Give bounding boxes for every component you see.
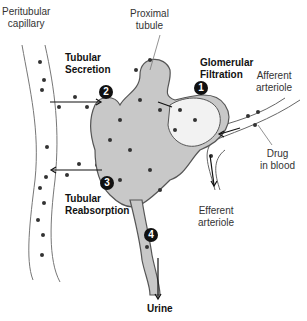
tubular-secretion-label: Tubular Secretion [65,52,111,76]
label-line: Tubular [65,52,111,64]
label-line: Filtration [200,69,253,81]
label-line: tubule [130,20,169,32]
label-line: Glomerular [200,57,253,69]
label-line: arteriole [256,82,292,94]
capillary-dots [36,60,99,257]
label-line: arteriole [198,217,234,229]
step-2-badge: 2 [99,85,113,99]
label-line: Peritubular [2,6,50,18]
label-line: Afferent [256,70,292,82]
afferent-arteriole-label: Afferent arteriole [256,70,292,94]
label-line: Efferent [198,205,234,217]
label-line: Proximal [130,8,169,20]
step-3-badge: 3 [100,176,114,190]
step-1-badge: 1 [194,81,208,95]
urine-label: Urine [147,303,173,315]
peritubular-capillary [22,45,60,282]
tubular-reabsorption-label: Tubular Reabsorption [65,193,129,217]
label-line: in blood [260,160,295,172]
label-line: Secretion [65,64,111,76]
label-line: Tubular [65,193,129,205]
glomerular-filtration-label: Glomerular Filtration [200,57,253,81]
proximal-tubule-label: Proximal tubule [130,8,169,32]
label-line: Drug [260,148,295,160]
efferent-arteriole-label: Efferent arteriole [198,205,234,229]
peritubular-capillary-label: Peritubular capillary [2,6,50,30]
drug-in-blood-label: Drug in blood [260,148,295,172]
label-line: capillary [2,18,50,30]
label-line: Reabsorption [65,205,129,217]
step-4-badge: 4 [144,228,158,242]
nephron-diagram: Peritubular capillary Proximal tubule Tu… [0,0,307,321]
